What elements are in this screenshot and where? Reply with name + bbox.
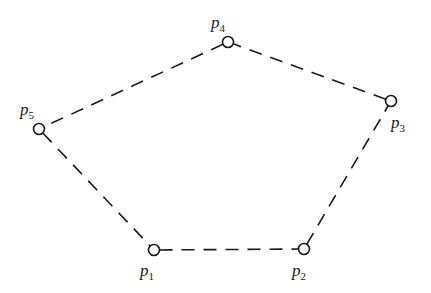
edge-p4-p5	[44, 44, 223, 126]
label-p1: p1	[139, 261, 154, 282]
vertex-p4	[223, 37, 234, 48]
vertices	[34, 37, 397, 256]
edge-p1-p2	[159, 249, 298, 250]
edge-p2-p3	[307, 106, 388, 245]
label-p4: p4	[210, 13, 226, 34]
edges	[43, 44, 388, 250]
label-p5: p5	[19, 100, 35, 121]
label-p2: p2	[291, 261, 306, 282]
label-p3: p3	[390, 113, 406, 134]
vertex-p1	[149, 245, 160, 256]
vertex-p3	[386, 96, 397, 107]
edge-p5-p1	[43, 133, 150, 246]
edge-p3-p4	[233, 44, 386, 99]
labels: p1p2p3p4p5	[19, 13, 406, 282]
pentagon-diagram: p1p2p3p4p5	[0, 0, 431, 293]
vertex-p2	[299, 244, 310, 255]
vertex-p5	[34, 124, 45, 135]
